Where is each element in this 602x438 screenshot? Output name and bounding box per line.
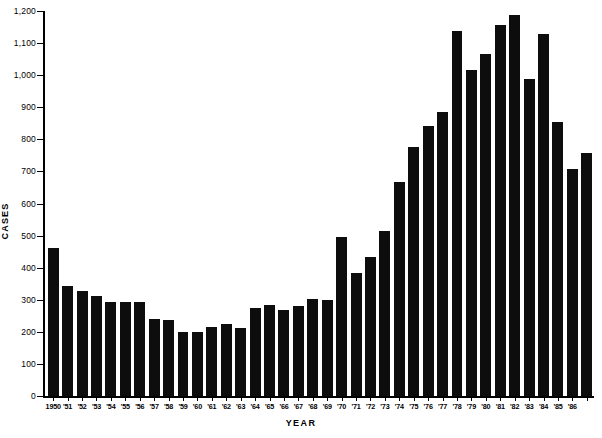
bar	[250, 308, 261, 396]
x-axis-tick	[486, 397, 487, 401]
bar	[437, 112, 448, 396]
y-axis-tick	[37, 43, 44, 44]
x-axis-tick	[255, 397, 256, 401]
bar	[552, 122, 563, 396]
bar	[336, 237, 347, 396]
bar	[408, 147, 419, 396]
x-axis-tick	[414, 397, 415, 401]
y-axis-tick-label: 1,100	[14, 39, 36, 48]
y-axis-tick-label: 400	[21, 264, 36, 273]
bar	[567, 169, 578, 396]
bar	[192, 332, 203, 396]
x-axis-tick	[457, 397, 458, 401]
x-axis-tick-label: '82	[508, 402, 522, 411]
x-axis-tick	[587, 397, 588, 401]
x-axis-tick	[111, 397, 112, 401]
bar	[278, 310, 289, 396]
x-axis-tick	[212, 397, 213, 401]
y-axis-tick	[37, 75, 44, 76]
bar	[206, 327, 217, 396]
x-axis-tick-label: '83	[522, 402, 536, 411]
x-axis-tick	[356, 397, 357, 401]
bar	[120, 302, 131, 396]
x-axis-tick-label: '55	[118, 402, 132, 411]
y-axis-tick-label: 0	[31, 392, 36, 401]
x-axis-tick-label: '63	[234, 402, 248, 411]
x-axis-tick	[226, 397, 227, 401]
x-axis-tick	[197, 397, 198, 401]
bar	[163, 320, 174, 396]
bar	[105, 302, 116, 396]
plot-area: 1950'51'52'53'54'55'56'57'58'59'60'61'62…	[46, 11, 594, 396]
bar	[235, 328, 246, 396]
x-axis-tick-label: '76	[421, 402, 435, 411]
bar	[581, 153, 592, 396]
y-axis-tick-label: 100	[21, 360, 36, 369]
x-axis-tick	[53, 397, 54, 401]
x-axis-tick-label: '74	[392, 402, 406, 411]
x-axis-tick-label: '61	[205, 402, 219, 411]
bar	[307, 299, 318, 396]
x-axis-tick	[154, 397, 155, 401]
x-axis-tick-label: '68	[306, 402, 320, 411]
x-axis-tick-label: '54	[104, 402, 118, 411]
x-axis-title: YEAR	[0, 418, 602, 428]
x-axis-tick	[96, 397, 97, 401]
y-axis-tick-label: 1,000	[14, 71, 36, 80]
x-axis-tick	[68, 397, 69, 401]
bar	[466, 70, 477, 396]
y-axis-tick	[37, 107, 44, 108]
bar	[394, 182, 405, 396]
bar	[495, 25, 506, 396]
x-axis-tick	[169, 397, 170, 401]
x-axis-tick	[140, 397, 141, 401]
y-axis-tick	[37, 364, 44, 365]
x-axis-tick-label: '69	[320, 402, 334, 411]
y-axis-tick-label: 200	[21, 328, 36, 337]
x-axis-tick-label: '59	[176, 402, 190, 411]
bar	[538, 34, 549, 396]
x-axis-tick-label: '72	[363, 402, 377, 411]
x-axis-tick	[500, 397, 501, 401]
x-axis-tick	[241, 397, 242, 401]
y-axis-tick-label: 700	[21, 167, 36, 176]
x-axis-tick-label: '75	[407, 402, 421, 411]
x-axis-tick	[515, 397, 516, 401]
y-axis-tick	[37, 139, 44, 140]
x-axis-tick-label: '77	[436, 402, 450, 411]
bar-series	[46, 11, 594, 396]
x-axis-tick	[385, 397, 386, 401]
x-axis-tick-label: '52	[75, 402, 89, 411]
y-axis-tick	[37, 171, 44, 172]
x-axis-tick	[327, 397, 328, 401]
y-axis-tick	[37, 236, 44, 237]
x-axis-tick	[443, 397, 444, 401]
x-axis-tick-label: '65	[263, 402, 277, 411]
bar	[379, 231, 390, 396]
x-axis-tick-label: '51	[61, 402, 75, 411]
x-axis-tick	[399, 397, 400, 401]
bar	[178, 332, 189, 396]
x-axis-tick-label: '85	[551, 402, 565, 411]
x-axis-tick	[370, 397, 371, 401]
x-axis-tick	[471, 397, 472, 401]
bar	[524, 79, 535, 396]
x-axis-tick-label: '71	[349, 402, 363, 411]
x-axis-tick	[342, 397, 343, 401]
x-axis-tick-label: '53	[89, 402, 103, 411]
x-axis-tick	[183, 397, 184, 401]
x-axis-tick	[82, 397, 83, 401]
y-axis-tick	[37, 268, 44, 269]
x-axis-tick-label: '64	[248, 402, 262, 411]
x-axis-tick	[544, 397, 545, 401]
bar	[77, 291, 88, 396]
bar	[91, 296, 102, 396]
x-axis-tick-label: '56	[133, 402, 147, 411]
x-axis-tick-label: '86	[565, 402, 579, 411]
bar	[365, 257, 376, 396]
bar	[509, 15, 520, 396]
x-axis-tick-label: '81	[493, 402, 507, 411]
bar	[62, 286, 73, 396]
y-axis-tick-label: 900	[21, 103, 36, 112]
x-axis-tick	[284, 397, 285, 401]
